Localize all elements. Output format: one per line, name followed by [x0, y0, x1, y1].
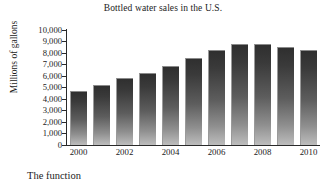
bar [139, 73, 156, 145]
bar [254, 44, 271, 145]
y-axis-tick [62, 30, 67, 31]
y-axis-tick [62, 145, 67, 146]
bar [231, 44, 248, 145]
bar [185, 58, 202, 145]
bar [70, 91, 87, 145]
bar [208, 50, 225, 145]
y-axis-label: Millions of gallons [9, 7, 19, 107]
x-axis-tick-label: 2004 [154, 148, 188, 157]
y-axis-tick-label: 10,000 [26, 26, 62, 35]
bar-series [67, 30, 320, 145]
y-axis-tick-label: 2,000 [26, 118, 62, 127]
y-axis-tick [62, 122, 67, 123]
bar [162, 66, 179, 145]
y-axis-tick-label: 4,000 [26, 95, 62, 104]
x-axis-tick-label: 2006 [200, 148, 234, 157]
y-axis-tick [62, 76, 67, 77]
y-axis-tick-label: 3,000 [26, 106, 62, 115]
bar [93, 85, 110, 145]
x-axis-tick-label: 2000 [62, 148, 96, 157]
y-axis-tick-label: 6,000 [26, 72, 62, 81]
y-axis-tick [62, 87, 67, 88]
y-axis-tick-labels: 10,0009,0008,0007,0006,0005,0004,0003,00… [22, 0, 62, 191]
y-axis-tick-label: 1,000 [26, 129, 62, 138]
y-axis-tick [62, 99, 67, 100]
y-axis-tick-label: 7,000 [26, 60, 62, 69]
y-axis-tick [62, 41, 67, 42]
y-axis-tick-label: 5,000 [26, 83, 62, 92]
x-axis-tick-label: 2010 [292, 148, 326, 157]
y-axis-tick-label: 0 [26, 141, 62, 150]
bar [277, 47, 294, 145]
bar [116, 78, 133, 145]
y-axis-tick-label: 9,000 [26, 37, 62, 46]
bar [300, 50, 317, 145]
y-axis-tick [62, 64, 67, 65]
x-axis-tick-label: 2002 [108, 148, 142, 157]
y-axis-tick [62, 110, 67, 111]
y-axis-tick [62, 53, 67, 54]
bar-chart-figure: Bottled water sales in the U.S. Millions… [0, 0, 326, 191]
x-axis-line [66, 145, 320, 146]
y-axis-tick-label: 8,000 [26, 49, 62, 58]
x-axis-tick-label: 2008 [246, 148, 280, 157]
y-axis-tick [62, 133, 67, 134]
figure-caption: The function [27, 170, 81, 181]
